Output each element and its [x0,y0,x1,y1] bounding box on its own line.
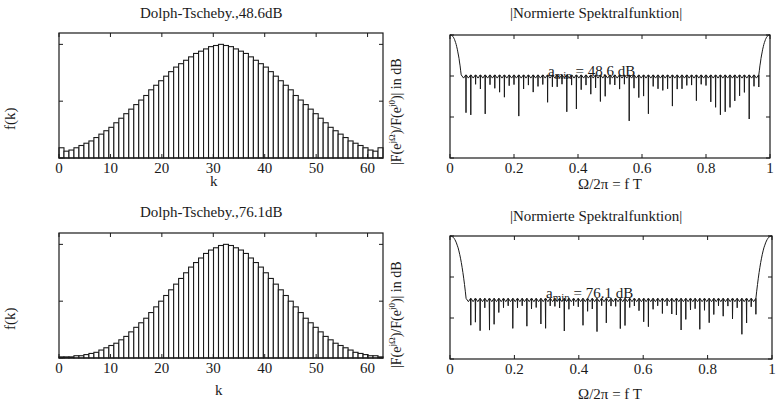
tick-label: 10 [103,160,118,177]
tick-label: 0.4 [569,361,588,378]
bar-plot-area [59,233,383,358]
tick-label: 50 [309,360,324,377]
chart-title: Dolph-Tscheby.,48.6dB [140,5,283,22]
tick-label: 1 [766,160,774,177]
y-axis-label: |F(ejΩ)/F(ej0)| in dB [387,261,405,368]
bar-plot-area [59,33,383,158]
tick-label: 30 [206,160,221,177]
y-axis-label: f(k) [2,308,19,331]
tick-label: 60 [360,160,375,177]
tick-label: 0 [55,360,63,377]
chart-title: Dolph-Tscheby.,76.1dB [140,204,283,221]
chart-title: |Normierte Spektralfunktion| [510,208,682,225]
tick-label: 40 [257,360,272,377]
x-axis-label: Ω/2π = f T [578,176,642,193]
tick-label: 0.2 [505,361,524,378]
y-axis-label: f(k) [2,108,19,131]
amin-annotation: amin = 48.6 dB [548,63,635,81]
tick-label: 10 [103,360,118,377]
y-axis-label: |F(ejΩ)/F(ej0)| in dB [387,58,405,165]
tick-label: 0.6 [634,361,653,378]
chart-title: |Normierte Spektralfunktion| [510,5,682,22]
tick-label: 60 [360,360,375,377]
tick-label: 40 [257,160,272,177]
tick-label: 0.8 [698,361,717,378]
tick-label: 20 [154,160,169,177]
tick-label: 20 [154,360,169,377]
line-plot-area [450,35,770,158]
x-axis-label: Ω/2π = f T [578,386,642,403]
amin-annotation: amin = 76.1 dB [546,285,633,303]
tick-label: 0 [446,361,454,378]
tick-label: 30 [206,360,221,377]
tick-label: 0.4 [569,160,588,177]
tick-label: 0.2 [505,160,524,177]
tick-label: 50 [309,160,324,177]
tick-label: 0.6 [633,160,652,177]
tick-label: 0.8 [697,160,716,177]
tick-label: 0 [55,160,63,177]
x-axis-label: k [215,382,223,399]
tick-label: 0 [446,160,454,177]
tick-label: 1 [768,361,776,378]
